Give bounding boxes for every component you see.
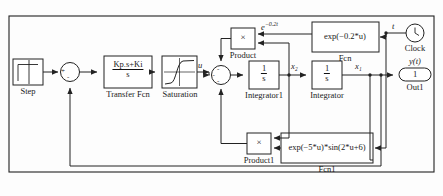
integrator-expression: 1 s — [324, 64, 330, 82]
fcn-expression: exp(−0.2*u) — [324, 32, 366, 41]
transfer-fcn-expression: Kp.s+Ki s — [112, 60, 143, 78]
block-diagram-canvas: Step + - Kp.s+Ki s Transfer Fcn Saturati… — [0, 0, 443, 196]
fcn-caption: Fcn — [339, 54, 352, 63]
sum1-sign-plus: + — [61, 68, 65, 75]
step-block — [13, 59, 43, 85]
integrator-denominator: s — [324, 74, 330, 83]
sum2-sign-left: - — [213, 72, 215, 79]
diagram-vector-layer — [0, 0, 443, 196]
saturation-caption: Saturation — [163, 90, 198, 99]
step-caption: Step — [20, 87, 35, 96]
clock-caption: Clock — [405, 44, 425, 53]
transfer-fcn-denominator: s — [112, 70, 143, 79]
signal-label-exp-decay: e−0.2t — [261, 21, 278, 31]
product-symbol: × — [240, 33, 245, 42]
product1-caption: Product1 — [244, 156, 275, 165]
sum2-sign-top: - — [217, 66, 219, 73]
out1-port-number: 1 — [413, 70, 417, 79]
signal-label-x2: x₂ — [291, 62, 298, 71]
integrator1-caption: Integrator1 — [245, 91, 283, 100]
signal-label-u: u — [198, 61, 202, 70]
integrator1-expression: 1 s — [261, 64, 267, 82]
signal-label-x1: x₁ — [355, 62, 362, 71]
fcn1-expression: exp(−5*u)*sin(2*u+6) — [288, 143, 365, 152]
product-caption: Product — [230, 51, 256, 60]
integrator1-denominator: s — [261, 74, 267, 83]
junction-dot-feedback — [379, 73, 382, 76]
fcn1-caption: Fcn1 — [319, 165, 336, 174]
out1-caption: Out1 — [407, 83, 424, 92]
sum1-sign-minus: - — [67, 74, 69, 81]
signal-label-t: t — [392, 22, 394, 31]
transfer-fcn-caption: Transfer Fcn — [106, 90, 149, 99]
signal-label-y-of-t: y(t) — [409, 57, 421, 66]
integrator-caption: Integrator — [310, 91, 344, 100]
exp-exponent: −0.2t — [265, 21, 278, 27]
sum2-sign-bottom: - — [217, 78, 219, 85]
product1-symbol: × — [256, 138, 261, 147]
